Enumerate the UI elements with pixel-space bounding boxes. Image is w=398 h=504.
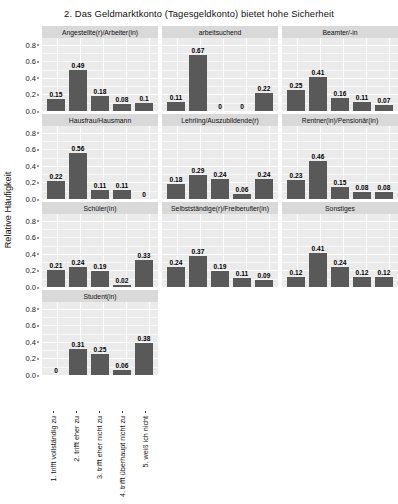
bar-slot: 0.22 <box>253 38 275 111</box>
facet-row: 0.00.20.40.60.8Student(in)00.310.250.060… <box>16 290 398 375</box>
bar-value-label: 0.22 <box>253 85 275 92</box>
bar-value-label: 0.24 <box>165 259 187 266</box>
bar-value-label: 0.41 <box>307 245 329 252</box>
bar <box>331 98 349 111</box>
bar-slot: 0.24 <box>329 214 351 287</box>
bar-value-label: 0.02 <box>111 277 133 284</box>
bar-value-label: 0.49 <box>67 62 89 69</box>
bar-slot: 0.49 <box>67 38 89 111</box>
x-axis-tick-labels: 1. trifft vollständig zu2. trifft eher z… <box>38 414 159 504</box>
bar <box>167 102 185 111</box>
bar-value-label: 0.16 <box>329 90 351 97</box>
y-axis-tick: 0.6 <box>25 321 36 330</box>
bar-value-label: 0.31 <box>67 341 89 348</box>
facet-strip-label: Schüler(in) <box>42 202 158 214</box>
bar-slot: 0.21 <box>45 214 67 287</box>
y-axis: 0.00.20.40.60.8 <box>16 290 38 375</box>
bar-slot: 0.24 <box>253 126 275 199</box>
bar-slot: 0.07 <box>373 38 395 111</box>
bar-slot: 0.08 <box>373 126 395 199</box>
plot-area: 0.210.240.190.020.33 <box>42 214 158 287</box>
bar <box>211 179 229 199</box>
bar <box>167 267 185 287</box>
bar-value-label: 0.12 <box>351 269 373 276</box>
bar-slot: 0.11 <box>89 126 111 199</box>
bar-slot: 0.18 <box>89 38 111 111</box>
bar <box>113 190 131 199</box>
facet-strip-label: Beamter/-in <box>282 26 398 38</box>
bar-value-label: 0.24 <box>209 171 231 178</box>
bar-slot: 0.15 <box>329 126 351 199</box>
bar-value-label: 0.06 <box>231 186 253 193</box>
plot-area: 0.180.290.240.060.24 <box>162 126 278 199</box>
bar <box>375 192 393 199</box>
bar <box>167 184 185 199</box>
bar-value-label: 0 <box>209 103 231 110</box>
y-axis-tick: 0.8 <box>25 304 36 313</box>
bar <box>353 102 371 111</box>
bar <box>189 256 207 287</box>
bar <box>113 285 131 287</box>
bar-group: 0.240.370.190.110.09 <box>162 214 278 287</box>
bar <box>331 187 349 199</box>
y-axis-tick: 0.8 <box>25 216 36 225</box>
bar-slot: 0.06 <box>231 126 253 199</box>
bar-value-label: 0.22 <box>45 173 67 180</box>
y-axis-tick: 0.4 <box>25 337 36 346</box>
bar-slot: 0.19 <box>209 214 231 287</box>
plot-area: 0.220.560.110.110 <box>42 126 158 199</box>
bar <box>233 194 251 199</box>
bar <box>47 99 65 111</box>
facet-strip-label: Sonstiges <box>282 202 398 214</box>
bar-slot: 0.11 <box>351 38 373 111</box>
facet-strip-label: Student(in) <box>42 290 158 302</box>
facet-strip-label: Rentner(in)/Pensionär(in) <box>282 114 398 126</box>
facet-strip-label: Hausfrau/Hausmann <box>42 114 158 126</box>
bar-value-label: 0.33 <box>133 252 155 259</box>
y-axis: 0.00.20.40.60.8 <box>16 202 38 287</box>
y-axis-tick: 0.4 <box>25 73 36 82</box>
bar-slot: 0.24 <box>165 214 187 287</box>
facet-panel: Lehrling/Auszubildende(r)0.180.290.240.0… <box>162 114 278 199</box>
bar <box>135 343 153 375</box>
bar-value-label: 0.41 <box>307 69 329 76</box>
facet-panel: Hausfrau/Hausmann0.220.560.110.110 <box>42 114 158 199</box>
bar <box>69 70 87 111</box>
bar <box>135 260 153 287</box>
bar-slot: 0 <box>209 38 231 111</box>
bar-slot: 0.23 <box>285 126 307 199</box>
facet-strip-label: Selbstständige(r)/Freiberufler(in) <box>162 202 278 214</box>
bar-slot: 0.56 <box>67 126 89 199</box>
x-axis-tick-label: 4. trifft überhaupt nicht zu <box>117 416 126 497</box>
bar-value-label: 0.1 <box>133 95 155 102</box>
bar <box>69 349 87 375</box>
bar <box>331 267 349 287</box>
bar-slot: 0.09 <box>253 214 275 287</box>
bar <box>353 192 371 199</box>
bar-slot: 0.11 <box>165 38 187 111</box>
facet-panel: Beamter/-in0.250.410.160.110.07 <box>282 26 398 111</box>
bar-value-label: 0.21 <box>45 262 67 269</box>
bar <box>353 277 371 287</box>
bar-slot: 0.12 <box>351 214 373 287</box>
y-axis-label: Relative Häufigkeit <box>1 0 15 420</box>
bar-value-label: 0.11 <box>165 94 187 101</box>
bar <box>91 96 109 111</box>
bar-value-label: 0.25 <box>89 346 111 353</box>
y-axis-tick: 0.4 <box>25 161 36 170</box>
bar-slot: 0.12 <box>373 214 395 287</box>
y-axis-tick: 0.8 <box>25 40 36 49</box>
bar-slot: 0 <box>133 126 155 199</box>
bar-group: 0.210.240.190.020.33 <box>42 214 158 287</box>
bar-slot: 0.16 <box>329 38 351 111</box>
bar <box>255 280 273 287</box>
facet-panel: Selbstständige(r)/Freiberufler(in)0.240.… <box>162 202 278 287</box>
bar-value-label: 0 <box>231 103 253 110</box>
bar-value-label: 0.11 <box>231 270 253 277</box>
bar <box>91 190 109 199</box>
y-axis-tick: 0.2 <box>25 266 36 275</box>
bar <box>287 277 305 287</box>
bar <box>189 55 207 111</box>
x-axis-tick: 1. trifft vollständig zu <box>41 414 65 504</box>
x-axis-tick: 3. trifft eher nicht zu <box>87 414 111 504</box>
